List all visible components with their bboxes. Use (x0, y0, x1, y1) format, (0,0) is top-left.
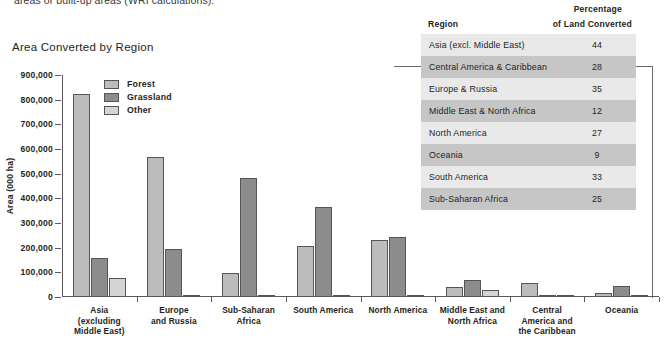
bar-group (211, 75, 286, 297)
table-cell-region: South America (421, 172, 488, 182)
x-axis-tick (584, 297, 585, 302)
y-axis-tick (55, 198, 61, 199)
table-cell-percentage: 35 (558, 84, 636, 94)
table-cell-percentage: 27 (558, 128, 636, 138)
bar-other[interactable] (183, 295, 200, 297)
x-axis-tick (510, 297, 511, 302)
table-cell-region: North America (421, 128, 487, 138)
table-cell-percentage: 28 (558, 62, 636, 72)
bar-grassland[interactable] (389, 237, 406, 297)
bar-other[interactable] (407, 295, 424, 297)
table-row[interactable]: Europe & Russia35 (421, 78, 636, 100)
table-row[interactable]: Asia (excl. Middle East)44 (421, 34, 636, 56)
y-axis-tick (55, 174, 61, 175)
table-cell-percentage: 44 (558, 40, 636, 50)
y-axis-tick (55, 124, 61, 125)
table-header-percentage-line2: of Land Converted (553, 19, 632, 29)
bar-other[interactable] (631, 295, 648, 297)
x-axis-tick (211, 297, 212, 302)
top-caption-text: areas or built-up areas (WRI calculation… (14, 0, 214, 6)
table-cell-percentage: 9 (558, 150, 636, 160)
bar-forest[interactable] (73, 94, 90, 298)
table-cell-percentage: 12 (558, 106, 636, 116)
table-cell-region: Central America & Caribbean (421, 62, 547, 72)
bar-grassland[interactable] (240, 178, 257, 297)
y-axis-title: Area (000 ha) (5, 158, 15, 215)
legend-item-other[interactable]: Other (104, 105, 172, 115)
table-row[interactable]: Central America & Caribbean28 (421, 56, 636, 78)
x-axis-tick (435, 297, 436, 302)
y-axis-tick-label: 200,000 (21, 243, 53, 253)
table-cell-percentage: 25 (558, 194, 636, 204)
x-axis-tick (286, 297, 287, 302)
bar-grassland[interactable] (613, 286, 630, 297)
table-cell-percentage: 33 (558, 172, 636, 182)
legend-swatch-grassland-icon (104, 93, 119, 102)
y-axis-tick (55, 75, 61, 76)
x-axis-tick (137, 297, 138, 302)
y-axis-tick-label: 600,000 (21, 144, 53, 154)
bar-other[interactable] (258, 295, 275, 297)
table-header: Region Percentage of Land Converted (421, 2, 636, 34)
bar-other[interactable] (333, 295, 350, 297)
bar-forest[interactable] (371, 240, 388, 297)
bar-forest[interactable] (222, 273, 239, 297)
y-axis-tick (55, 149, 61, 150)
table-cell-region: Middle East & North Africa (421, 106, 536, 116)
table-row[interactable]: Sub-Saharan Africa25 (421, 188, 636, 210)
bar-forest[interactable] (446, 287, 463, 297)
y-axis-tick (55, 100, 61, 101)
table-leader-line-left (394, 66, 421, 67)
bar-forest[interactable] (147, 157, 164, 297)
chart-title: Area Converted by Region (12, 41, 154, 53)
bar-forest[interactable] (595, 293, 612, 297)
y-axis-tick-label: 300,000 (21, 218, 53, 228)
bar-grassland[interactable] (315, 207, 332, 297)
figure-page: areas or built-up areas (WRI calculation… (0, 0, 665, 347)
bar-forest[interactable] (297, 246, 314, 297)
table-row[interactable]: South America33 (421, 166, 636, 188)
x-axis-tick (361, 297, 362, 302)
y-axis-tick-label: 800,000 (21, 95, 53, 105)
x-axis-tick (659, 297, 660, 302)
y-axis-tick-label: 0 (48, 292, 53, 302)
bar-grassland[interactable] (91, 258, 108, 297)
bar-grassland[interactable] (464, 280, 481, 297)
legend-item-forest[interactable]: Forest (104, 79, 172, 89)
y-axis-tick (55, 223, 61, 224)
table-row[interactable]: Middle East & North Africa12 (421, 100, 636, 122)
bar-other[interactable] (109, 278, 126, 297)
table-row[interactable]: Oceania9 (421, 144, 636, 166)
y-axis-tick-label: 100,000 (21, 267, 53, 277)
land-converted-table: Region Percentage of Land Converted Asia… (421, 2, 636, 210)
legend-label-other: Other (127, 105, 151, 115)
table-cell-region: Oceania (421, 150, 463, 160)
bar-other[interactable] (482, 290, 499, 297)
table-header-region: Region (428, 19, 458, 29)
bar-grassland[interactable] (165, 249, 182, 297)
bar-grassland[interactable] (539, 295, 556, 297)
bar-forest[interactable] (521, 283, 538, 297)
table-leader-line-right-horizontal (636, 66, 653, 67)
y-axis-tick-label: 900,000 (21, 70, 53, 80)
legend-label-forest: Forest (127, 79, 155, 89)
table-row[interactable]: North America27 (421, 122, 636, 144)
bar-other[interactable] (557, 295, 574, 297)
table-body: Asia (excl. Middle East)44Central Americ… (421, 34, 636, 210)
table-header-percentage-line1: Percentage (574, 4, 622, 14)
table-cell-region: Europe & Russia (421, 84, 497, 94)
table-cell-region: Asia (excl. Middle East) (421, 40, 525, 50)
legend-item-grassland[interactable]: Grassland (104, 92, 172, 102)
y-axis-tick-label: 700,000 (21, 119, 53, 129)
chart-legend: Forest Grassland Other (104, 79, 172, 115)
legend-swatch-forest-icon (104, 80, 119, 89)
x-axis-label: Oceania (576, 305, 665, 316)
y-axis-tick-label: 400,000 (21, 193, 53, 203)
y-axis-tick (55, 248, 61, 249)
y-axis-tick (55, 297, 61, 298)
bar-group (286, 75, 361, 297)
y-axis-tick (55, 272, 61, 273)
table-cell-region: Sub-Saharan Africa (421, 194, 508, 204)
y-axis-tick-label: 500,000 (21, 169, 53, 179)
legend-label-grassland: Grassland (127, 92, 172, 102)
